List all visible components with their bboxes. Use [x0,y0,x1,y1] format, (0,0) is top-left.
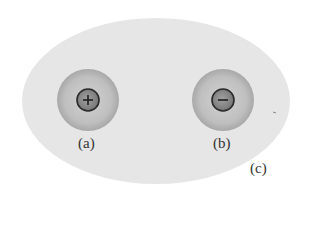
charge-a [57,69,119,131]
label-a: (a) [78,136,95,151]
label-b: (b) [213,136,231,151]
label-c: (c) [250,161,267,176]
charge-b [192,69,254,131]
